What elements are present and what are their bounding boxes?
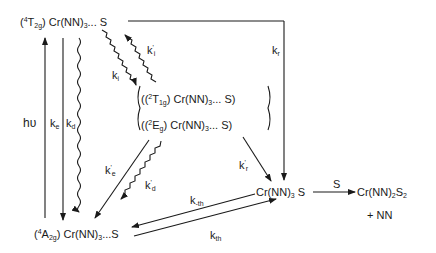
- ki-label: ki: [112, 69, 119, 85]
- ke-prime-arrow: [95, 140, 149, 218]
- kd-label: kd: [66, 117, 75, 133]
- k-th-label: kth: [210, 229, 221, 245]
- ground-state-species: (4A2g) Cr(NN)3...S: [34, 226, 119, 244]
- hv-label: hυ: [23, 117, 36, 129]
- ki-prime-label: k'i: [147, 42, 155, 60]
- kr-label: kr: [272, 44, 280, 60]
- doublet-t1g-species: ((2T1g) Cr(NN)3... S): [141, 91, 235, 109]
- excited-quartet-species: (4T2g) Cr(NN)3... S: [20, 14, 107, 32]
- kr-prime-label: k'r: [239, 157, 248, 175]
- doublet-eg-species: ((2Eg) Cr(NN)3... S): [141, 117, 232, 135]
- kd-wavy-arrow: [78, 38, 81, 212]
- kd-prime-label: k'd: [145, 177, 156, 195]
- k-minus-th-label: k-th: [190, 194, 204, 210]
- ke-label: ke: [50, 117, 59, 133]
- byproduct-label: + NN: [367, 209, 392, 221]
- s-reagent-label: S: [333, 178, 340, 190]
- k-th-arrow: [134, 199, 276, 236]
- ke-prime-label: k'e: [105, 162, 116, 180]
- product-species: Cr(NN)2S2: [357, 186, 407, 202]
- adduct-species: Cr(NN)3 S: [256, 186, 305, 202]
